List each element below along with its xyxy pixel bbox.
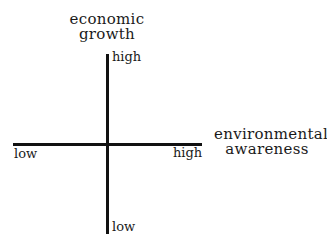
vertical-axis-high-label: high xyxy=(112,50,141,64)
vertical-axis-title-line2: growth xyxy=(62,27,152,42)
horizontal-axis-high-label: high xyxy=(173,146,202,160)
vertical-axis-title: economic growth xyxy=(62,12,152,42)
horizontal-axis-title-line2: awareness xyxy=(214,142,320,157)
horizontal-axis-title: environmental awareness xyxy=(214,127,320,157)
horizontal-axis-low-label: low xyxy=(14,147,37,161)
vertical-axis-low-label: low xyxy=(112,220,135,234)
